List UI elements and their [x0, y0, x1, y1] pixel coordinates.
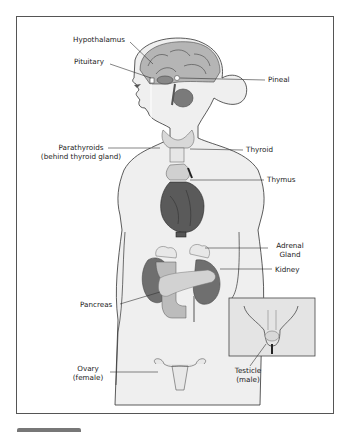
- label-ovary: Ovary (female): [70, 364, 106, 382]
- label-hypothalamus: Hypothalamus: [73, 35, 125, 44]
- label-testicle-line1: Testicle: [228, 366, 268, 375]
- label-parathyroids: Parathyroids (behind thyroid gland): [36, 143, 126, 161]
- label-pineal: Pineal: [268, 75, 290, 84]
- label-thymus: Thymus: [267, 175, 296, 184]
- label-testicle-line2: (male): [228, 375, 268, 384]
- label-adrenal-line2: Gland: [272, 250, 308, 259]
- label-adrenal-line1: Adrenal: [272, 241, 308, 250]
- label-kidney: Kidney: [275, 265, 300, 274]
- label-testicle: Testicle (male): [228, 366, 268, 384]
- caption-bar: [17, 428, 81, 432]
- testicle-inset: [229, 298, 315, 356]
- label-pituitary: Pituitary: [74, 57, 104, 66]
- label-pancreas: Pancreas: [80, 300, 112, 309]
- label-thyroid: Thyroid: [246, 145, 273, 154]
- label-ovary-line2: (female): [70, 373, 106, 382]
- label-parathyroids-line2: (behind thyroid gland): [36, 152, 126, 161]
- endocrine-illustration: [0, 0, 344, 432]
- label-adrenal-gland: Adrenal Gland: [272, 241, 308, 259]
- label-ovary-line1: Ovary: [70, 364, 106, 373]
- label-parathyroids-line1: Parathyroids: [36, 143, 126, 152]
